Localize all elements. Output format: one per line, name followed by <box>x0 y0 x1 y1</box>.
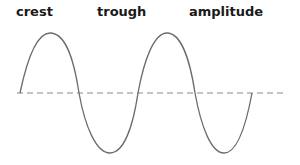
wave-diagram <box>0 0 300 165</box>
